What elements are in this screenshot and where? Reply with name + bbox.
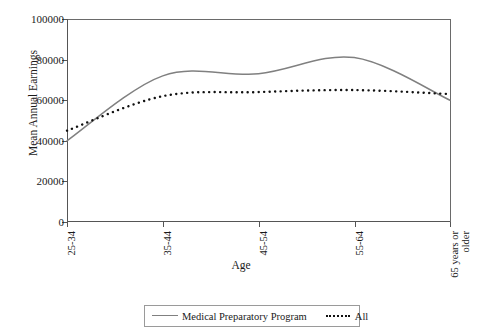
- chart-container: 100000 80000 60000 40000 20000 0 Mean An…: [0, 0, 482, 336]
- legend-label-medical-preparatory-program: Medical Preparatory Program: [182, 311, 307, 322]
- y-axis-label-60000: 60000: [37, 95, 65, 106]
- legend-label-all: All: [355, 311, 368, 322]
- x-axis-label-45-54: 45-54: [258, 231, 269, 256]
- x-axis-tick-65-plus: [450, 222, 451, 227]
- x-axis-label-25-34: 25-34: [66, 231, 77, 256]
- x-axis-title: Age: [0, 259, 482, 271]
- y-axis-label-40000: 40000: [37, 136, 65, 147]
- x-axis-tick-55-64: [355, 222, 356, 227]
- y-axis-label-0: 0: [59, 217, 65, 228]
- plot-frame-right-border: [450, 19, 451, 222]
- legend-swatch-solid-gray-line-icon: [152, 311, 178, 321]
- x-axis-label-55-64: 55-64: [354, 231, 365, 256]
- legend-swatch-dotted-black-line-icon: [325, 311, 351, 321]
- x-axis-tick-45-54: [259, 222, 260, 227]
- legend-item-all: All: [325, 311, 368, 322]
- y-axis-label-80000: 80000: [37, 55, 65, 66]
- plot-frame-top-border: [67, 19, 450, 20]
- y-axis-label-20000: 20000: [37, 176, 65, 187]
- legend: Medical Preparatory Program All: [144, 305, 360, 327]
- plot-area-frame: [67, 19, 450, 222]
- y-axis-title: Mean Annual Earnings: [27, 18, 39, 188]
- x-axis-label-35-44: 35-44: [162, 231, 173, 256]
- x-axis-tick-25-34: [67, 222, 68, 227]
- legend-item-medical-preparatory-program: Medical Preparatory Program: [152, 311, 307, 322]
- x-axis-tick-35-44: [163, 222, 164, 227]
